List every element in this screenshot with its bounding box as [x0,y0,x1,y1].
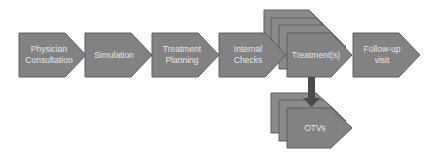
step-treatments-label: Treatment(s) [292,50,340,61]
step-follow-up-visit: Follow-up visit [353,33,411,77]
step-simulation-label: Simulation [94,50,134,61]
step-physician-consultation: Physician Consultation [19,33,79,77]
step-treatments: Treatment(s) [287,33,345,77]
step-treatment-planning-line1: Treatment [163,44,201,55]
step-otvs: OTVs [287,108,343,148]
step-internal-checks-line2: Checks [234,55,262,66]
step-internal-checks-line1: Internal [234,44,262,55]
step-otvs-label: OTVs [304,123,326,134]
step-treatment-planning: Treatment Planning [152,33,212,77]
process-flow-diagram [0,0,440,157]
step-internal-checks: Internal Checks [219,33,277,77]
step-physician-consultation-line1: Physician [25,44,72,55]
step-simulation: Simulation [85,33,143,77]
step-treatment-planning-line2: Planning [163,55,201,66]
step-physician-consultation-line2: Consultation [25,55,72,66]
step-follow-up-visit-line2: visit [364,55,401,66]
step-follow-up-visit-line1: Follow-up [364,44,401,55]
